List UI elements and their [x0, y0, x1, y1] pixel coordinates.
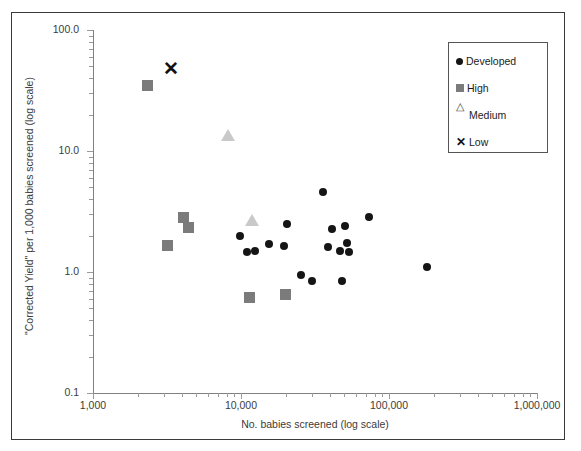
x-tick-minor [286, 393, 287, 397]
x-tick-minor [227, 393, 228, 397]
y-tick-minor [89, 49, 93, 50]
y-tick-minor [89, 36, 93, 37]
data-point-medium [245, 214, 259, 226]
x-tick-minor [208, 393, 209, 397]
x-tick-minor [375, 393, 376, 397]
y-tick-major [87, 30, 93, 31]
x-axis-line [93, 393, 538, 394]
x-tick-minor [514, 393, 515, 397]
y-tick-minor [89, 299, 93, 300]
data-point-developed [283, 220, 291, 228]
data-point-high [162, 240, 173, 251]
scatter-plot: 100.010.01.00.1 1,00010,000100,0001,000,… [0, 0, 581, 451]
data-point-developed [423, 263, 431, 271]
y-tick-minor [89, 214, 93, 215]
data-point-developed [265, 240, 273, 248]
x-tick-minor [234, 393, 235, 397]
legend-x-icon: ✕ [456, 137, 466, 147]
y-axis-title: "Corrected Yield" per 1,000 babies scree… [23, 71, 35, 341]
data-point-developed [319, 188, 327, 196]
y-tick-label: 10.0 [33, 145, 79, 155]
data-point-developed [280, 242, 288, 250]
legend-item-developed[interactable]: Developed [456, 52, 516, 70]
x-tick-minor [460, 393, 461, 397]
legend-square-icon [456, 84, 464, 92]
x-tick-label: 100,000 [349, 399, 429, 411]
y-tick-minor [89, 357, 93, 358]
y-tick-minor [89, 115, 93, 116]
data-point-medium [221, 129, 235, 141]
x-tick-label: 10,000 [201, 399, 281, 411]
legend-label: Developed [466, 55, 516, 67]
y-tick-minor [89, 199, 93, 200]
y-tick-minor [89, 93, 93, 94]
data-point-low: ✕ [163, 62, 179, 76]
x-tick-minor [312, 393, 313, 397]
legend-label: High [467, 82, 489, 94]
y-tick-minor [89, 335, 93, 336]
y-tick-minor [89, 57, 93, 58]
y-tick-minor [89, 284, 93, 285]
data-point-high [244, 292, 255, 303]
x-tick-minor [366, 393, 367, 397]
y-tick-major [87, 151, 93, 152]
y-tick-minor [89, 157, 93, 158]
x-tick-minor [218, 393, 219, 397]
data-point-developed [336, 247, 344, 255]
x-tick-minor [182, 393, 183, 397]
y-tick-minor [89, 308, 93, 309]
y-tick-minor [89, 278, 93, 279]
data-point-developed [251, 247, 259, 255]
y-tick-label: 100.0 [33, 24, 79, 34]
y-tick-minor [89, 320, 93, 321]
data-point-developed [328, 225, 336, 233]
legend-circle-icon [456, 58, 463, 65]
y-tick-minor [89, 78, 93, 79]
x-tick-minor [530, 393, 531, 397]
data-point-high [183, 222, 194, 233]
x-tick-label: 1,000,000 [497, 399, 577, 411]
y-tick-minor [89, 178, 93, 179]
data-point-developed [243, 248, 251, 256]
y-tick-label: 1.0 [33, 266, 79, 276]
y-tick-minor [89, 170, 93, 171]
x-tick-minor [196, 393, 197, 397]
y-axis-line [93, 30, 94, 394]
x-tick-minor [344, 393, 345, 397]
legend-item-medium[interactable]: Medium [456, 106, 506, 124]
x-axis-title: No. babies screened (log scale) [170, 418, 460, 430]
data-point-developed [308, 277, 316, 285]
data-point-developed [338, 277, 346, 285]
legend-triangle-icon [456, 111, 466, 120]
y-tick-minor [89, 187, 93, 188]
legend-label: Low [469, 136, 488, 148]
data-point-high [142, 80, 153, 91]
x-tick-minor [504, 393, 505, 397]
legend-item-high[interactable]: High [456, 79, 489, 97]
legend-item-low[interactable]: ✕Low [456, 133, 488, 151]
y-tick-minor [89, 42, 93, 43]
data-point-developed [343, 239, 351, 247]
x-tick-minor [330, 393, 331, 397]
data-point-high [280, 289, 291, 300]
x-tick-minor [434, 393, 435, 397]
y-tick-minor [89, 163, 93, 164]
y-tick-major [87, 272, 93, 273]
y-tick-minor [89, 66, 93, 67]
data-point-developed [297, 271, 305, 279]
data-point-developed [236, 232, 244, 240]
legend-box: DevelopedHighMedium✕Low [448, 42, 548, 153]
x-tick-minor [382, 393, 383, 397]
data-point-developed [345, 248, 353, 256]
x-tick-minor [356, 393, 357, 397]
x-tick-minor [478, 393, 479, 397]
x-tick-minor [523, 393, 524, 397]
legend-label: Medium [469, 109, 506, 121]
data-point-developed [341, 222, 349, 230]
y-tick-minor [89, 291, 93, 292]
data-point-developed [365, 213, 373, 221]
y-tick-minor [89, 236, 93, 237]
x-tick-minor [164, 393, 165, 397]
x-tick-label: 1,000 [53, 399, 133, 411]
y-tick-label: 0.1 [33, 387, 79, 397]
